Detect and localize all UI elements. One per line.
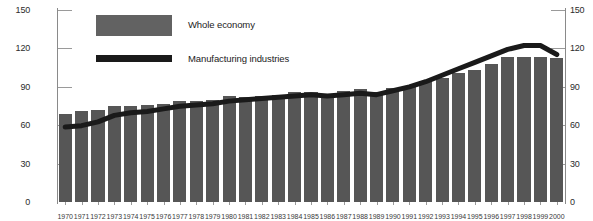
y-axis-right-tick-30: 30: [570, 160, 593, 169]
x-axis-tick: [377, 202, 378, 205]
x-axis-year-label: 1975: [139, 213, 155, 220]
x-axis-year-label: 1998: [516, 213, 532, 220]
bar: [501, 57, 514, 202]
x-axis-tick: [491, 202, 492, 205]
bar: [91, 110, 104, 202]
x-axis-year-label: 1993: [434, 213, 450, 220]
x-axis-year-label: 1982: [254, 213, 270, 220]
x-axis-tick: [229, 202, 230, 205]
x-axis-year-label: 1992: [418, 213, 434, 220]
x-axis-tick: [557, 202, 558, 205]
bar: [304, 92, 317, 202]
plot-area: [57, 8, 565, 202]
x-axis-year-label: 1983: [270, 213, 286, 220]
x-axis-tick: [344, 202, 345, 205]
bar: [321, 95, 334, 202]
x-axis-tick: [147, 202, 148, 205]
y-axis-right-tick-150: 150: [570, 6, 593, 15]
y-axis-left-tick-150: 150: [4, 6, 30, 15]
x-axis-year-label: 1999: [533, 213, 549, 220]
x-axis-year-label: 1971: [74, 213, 90, 220]
x-axis-tick: [213, 202, 214, 205]
y-axis-right-tick-0: 0: [570, 198, 593, 207]
x-axis-tick: [540, 202, 541, 205]
x-axis-tick: [393, 202, 394, 205]
bar: [206, 100, 219, 202]
bar: [223, 96, 236, 202]
y-axis-left-tick-90: 90: [4, 83, 30, 92]
x-axis-year-label: 1980: [221, 213, 237, 220]
x-axis-year-label: 1996: [483, 213, 499, 220]
y-axis-left-tick-120: 120: [4, 44, 30, 53]
x-axis-year-label: 1991: [402, 213, 418, 220]
x-axis-year-label: 1976: [156, 213, 172, 220]
x-axis-year-label: 1994: [451, 213, 467, 220]
x-axis-tick: [262, 202, 263, 205]
x-axis-tick: [114, 202, 115, 205]
legend-bar-swatch-icon: [96, 15, 172, 36]
x-axis-year-label: 1987: [336, 213, 352, 220]
bar: [534, 57, 547, 202]
x-axis-tick: [409, 202, 410, 205]
bar: [517, 57, 530, 202]
bar: [173, 101, 186, 202]
legend-line-swatch-icon: [96, 55, 172, 62]
x-axis-year-label: 1986: [320, 213, 336, 220]
bar: [436, 78, 449, 202]
x-axis-tick: [524, 202, 525, 205]
bar: [59, 114, 72, 202]
x-axis-year-label: 1974: [123, 213, 139, 220]
bar: [419, 82, 432, 202]
x-axis-year-label: 1995: [467, 213, 483, 220]
x-axis-year-label: 1997: [500, 213, 516, 220]
bar: [75, 111, 88, 202]
x-axis-year-label: 2000: [549, 213, 565, 220]
bar: [337, 91, 350, 202]
y-axis-right-tick-120: 120: [570, 44, 593, 53]
bar: [354, 89, 367, 202]
bar: [468, 70, 481, 202]
x-axis-year-label: 1973: [107, 213, 123, 220]
bar: [386, 88, 399, 202]
chart-container: 150 120 90 60 30 0 150 120 90 60 30 0 19…: [0, 0, 593, 221]
x-axis-tick: [442, 202, 443, 205]
x-axis-tick: [508, 202, 509, 205]
bar: [157, 104, 170, 202]
x-axis-tick: [131, 202, 132, 205]
x-axis-tick: [475, 202, 476, 205]
x-axis-year-label: 1979: [205, 213, 221, 220]
y-axis-left-tick-30: 30: [4, 160, 30, 169]
bar: [288, 92, 301, 202]
x-axis-tick: [196, 202, 197, 205]
x-axis-year-labels: 1970197119721973197419751976197719781979…: [57, 213, 565, 221]
x-axis-tick: [360, 202, 361, 205]
y-axis-right-spine: [565, 8, 566, 204]
x-axis-tick: [245, 202, 246, 205]
x-axis-tick: [164, 202, 165, 205]
legend-label-manufacturing-industries: Manufacturing industries: [188, 53, 289, 64]
bar: [452, 73, 465, 202]
x-axis-year-label: 1981: [238, 213, 254, 220]
x-axis-tick: [82, 202, 83, 205]
x-axis-tick: [98, 202, 99, 205]
bar: [255, 96, 268, 202]
bar: [403, 86, 416, 202]
bar: [485, 64, 498, 202]
bar: [108, 106, 121, 202]
bar: [550, 58, 563, 202]
y-axis-left-tick-0: 0: [4, 198, 30, 207]
x-axis-tick: [327, 202, 328, 205]
x-axis-tick: [426, 202, 427, 205]
x-axis-year-label: 1970: [57, 213, 73, 220]
x-axis-year-label: 1984: [287, 213, 303, 220]
x-axis-year-label: 1978: [188, 213, 204, 220]
bar: [370, 92, 383, 202]
bar: [141, 105, 154, 202]
x-axis-year-label: 1990: [385, 213, 401, 220]
bar-series-whole-economy: [57, 8, 565, 202]
bar: [190, 101, 203, 202]
bar: [124, 106, 137, 202]
y-axis-left-tick-60: 60: [4, 121, 30, 130]
x-axis-year-label: 1989: [369, 213, 385, 220]
x-axis-year-label: 1977: [172, 213, 188, 220]
